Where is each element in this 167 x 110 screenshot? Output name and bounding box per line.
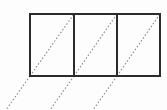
diagonal-1-line: [30, 14, 74, 76]
diagonal-1-extension-line: [6, 76, 30, 110]
diagonal-3-extension-line: [93, 76, 117, 110]
figure-canvas: [0, 0, 167, 110]
geometry-figure: [0, 0, 167, 110]
diagonal-2-line: [74, 14, 117, 76]
diagonal-2-extension-line: [50, 76, 74, 110]
rectangle-row-outline: [30, 14, 160, 76]
diagonal-3-line: [117, 14, 160, 76]
